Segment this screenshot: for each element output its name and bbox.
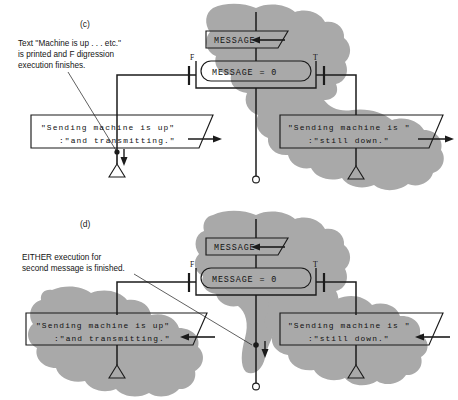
annotation-c-line2: is printed and F digression <box>18 50 114 59</box>
input-box-d-label: MESSAGE <box>214 243 255 253</box>
branch-false-label-c: F <box>190 53 194 62</box>
output-left-d-line1: "Sending machine is up" <box>36 321 170 330</box>
panel-c: (c) Text ''Machine is up . . . etc.'' is… <box>18 4 454 190</box>
terminator-circle-c <box>253 176 260 183</box>
panel-label-d: (d) <box>80 219 91 229</box>
output-right-d-line1: "Sending machine is " <box>288 321 411 330</box>
output-right-c-line1: "Sending machine is " <box>288 123 411 132</box>
output-right-c-line2: :"still down." <box>308 136 390 145</box>
annotation-d-line1: EITHER execution for <box>22 253 101 262</box>
annotation-d-line2: second message is finished. <box>22 264 125 273</box>
decision-c-label: MESSAGE = 0 <box>212 68 277 78</box>
figure-root: (c) Text ''Machine is up . . . etc.'' is… <box>0 0 458 400</box>
panel-d: (d) EITHER execution for second message … <box>22 211 450 397</box>
output-left-c-line1: "Sending machine is up" <box>41 123 175 132</box>
output-left-arrowhead-c <box>213 136 222 143</box>
input-box-c-label: MESSAGE <box>214 36 255 46</box>
output-right-d-line2: :"still down." <box>308 334 390 343</box>
annotation-c-line1: Text ''Machine is up . . . etc.'' <box>18 39 122 48</box>
output-left-c-line2: :"and transmitting." <box>59 136 176 145</box>
panel-label-c: (c) <box>80 19 90 29</box>
branch-false-label-d: F <box>190 260 194 269</box>
junction-dot-d <box>253 342 259 348</box>
output-right-arrowhead-c <box>445 136 454 143</box>
branch-true-label-c: T <box>313 53 318 62</box>
branch-true-label-d: T <box>313 260 318 269</box>
annotation-c-line3: execution finishes. <box>18 61 85 70</box>
terminator-circle-d <box>253 383 260 390</box>
shade-blob-c <box>206 4 444 190</box>
decision-d-label: MESSAGE = 0 <box>212 275 277 285</box>
flowchart-svg: (c) Text ''Machine is up . . . etc.'' is… <box>0 0 458 400</box>
output-left-d-line2: :"and transmitting." <box>54 334 171 343</box>
terminator-triangle-left-c <box>109 164 125 177</box>
left-down-arrowhead-c <box>121 157 128 166</box>
